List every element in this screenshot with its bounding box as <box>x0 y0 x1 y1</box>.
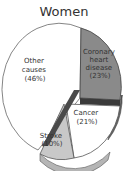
label-other-line1: Other <box>24 57 44 65</box>
pie-chart: Coronary heart disease (23%) Other cause… <box>0 0 128 171</box>
label-coronary-line2: heart <box>90 56 109 64</box>
label-coronary-line1: Coronary <box>83 48 115 56</box>
label-stroke-line2: (10%) <box>41 140 62 148</box>
label-other-line2: causes <box>22 66 47 74</box>
label-coronary-line3: disease <box>86 64 113 72</box>
label-stroke-line1: Stroke <box>40 132 62 140</box>
label-other-line3: (46%) <box>24 75 45 83</box>
svg-text:Other causes (46%): Other causes (46%) <box>22 57 48 83</box>
label-coronary-line4: (23%) <box>89 72 110 80</box>
label-cancer-line2: (21%) <box>76 118 97 126</box>
label-cancer-line1: Cancer <box>74 109 99 117</box>
svg-text:Stroke (10%): Stroke (10%) <box>40 132 65 148</box>
svg-text:Cancer (21%): Cancer (21%) <box>74 109 101 126</box>
